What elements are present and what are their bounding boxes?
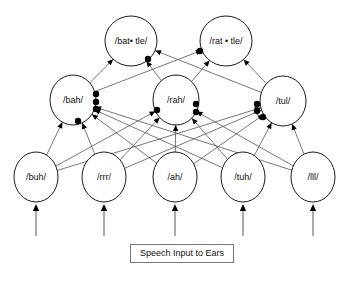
node-label-tuh: /tuh/ xyxy=(234,172,252,182)
node-ah: /ah/ xyxy=(153,152,197,202)
node-tuh: /tuh/ xyxy=(221,152,265,202)
network-canvas: /bat• tle//rat • tle//bah//rah//tul//buh… xyxy=(0,0,347,282)
node-label-tul: /tul/ xyxy=(276,96,291,106)
synapse-dot xyxy=(93,91,99,97)
node-label-rattle: /rat • tle/ xyxy=(209,36,243,46)
node-label-bah: /bah/ xyxy=(63,95,84,105)
synapse-dot xyxy=(93,99,99,105)
speech-network-diagram: /bat• tle//rat • tle//bah//rah//tul//buh… xyxy=(0,0,347,282)
synapse-dot xyxy=(154,107,160,113)
node-lll: /lll/ xyxy=(291,152,335,202)
node-rattle: /rat • tle/ xyxy=(200,16,252,66)
node-label-rrr: /rrr/ xyxy=(97,172,111,182)
node-label-rah: /rah/ xyxy=(167,95,186,105)
synapse-dot xyxy=(197,48,203,54)
synapse-dot xyxy=(193,109,199,115)
node-tul: /tul/ xyxy=(260,76,306,126)
input-arrows-group xyxy=(33,204,316,236)
node-label-battle: /bat• tle/ xyxy=(115,36,148,46)
synapse-dot xyxy=(254,101,260,107)
synapse-dot xyxy=(260,114,266,120)
nodes-group: /bat• tle//rat • tle//bah//rah//tul//buh… xyxy=(14,16,335,202)
synapse-dot xyxy=(75,118,81,124)
node-buh: /buh/ xyxy=(14,152,58,202)
synapse-dot xyxy=(145,56,151,62)
node-rah: /rah/ xyxy=(153,75,199,125)
speech-input-caption: Speech Input to Ears xyxy=(130,244,234,263)
node-label-lll: /lll/ xyxy=(308,172,319,182)
node-label-buh: /buh/ xyxy=(26,172,47,182)
node-rrr: /rrr/ xyxy=(82,152,126,202)
synapse-dot xyxy=(93,106,99,112)
synapse-dot xyxy=(254,108,260,114)
synapse-dot xyxy=(193,101,199,107)
node-label-ah: /ah/ xyxy=(167,172,183,182)
node-bah: /bah/ xyxy=(50,75,96,125)
